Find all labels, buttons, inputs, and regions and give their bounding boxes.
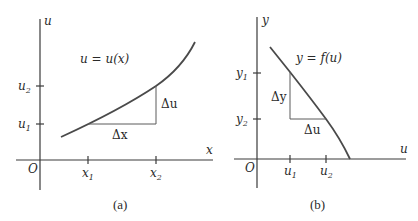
origin-label-b: O — [245, 161, 255, 175]
axis-label-u: u — [44, 14, 52, 28]
panel-a: u x O u = u(x) u2 u1 x1 x2 Δu Δx (a) — [16, 14, 213, 212]
tick-label-y2: y2 — [235, 112, 248, 128]
curve-label-b: y = f(u) — [295, 51, 342, 65]
curve-label-a: u = u(x) — [80, 52, 130, 66]
tick-label-x1: x1 — [82, 166, 94, 182]
axis-label-u: u — [400, 142, 408, 156]
panel-b: y u O y = f(u) y1 y2 u1 u2 Δy Δu (b) — [234, 13, 408, 212]
delta-y-label: Δy — [271, 90, 287, 104]
caption-b: (b) — [310, 197, 325, 212]
tick-label-x2: x2 — [150, 166, 162, 182]
tick-label-u1: u1 — [284, 164, 297, 180]
tick-label-u2: u2 — [320, 164, 333, 180]
tick-label-u2: u2 — [18, 79, 31, 95]
tick-label-y1: y1 — [235, 66, 248, 82]
delta-u-label-b: Δu — [304, 123, 321, 137]
diagram-canvas: u x O u = u(x) u2 u1 x1 x2 Δu Δx (a) y u… — [0, 0, 418, 221]
origin-label-a: O — [28, 162, 38, 176]
caption-a: (a) — [113, 197, 127, 212]
axis-label-x: x — [206, 143, 213, 157]
axis-label-y: y — [261, 13, 269, 27]
tick-label-u1: u1 — [18, 117, 31, 133]
delta-x-label: Δx — [112, 128, 128, 142]
delta-u-label: Δu — [161, 97, 178, 111]
